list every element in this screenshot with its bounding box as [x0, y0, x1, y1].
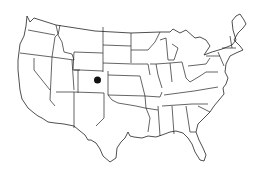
markers — [94, 77, 101, 84]
location-marker — [94, 77, 101, 84]
us-map — [0, 0, 262, 175]
